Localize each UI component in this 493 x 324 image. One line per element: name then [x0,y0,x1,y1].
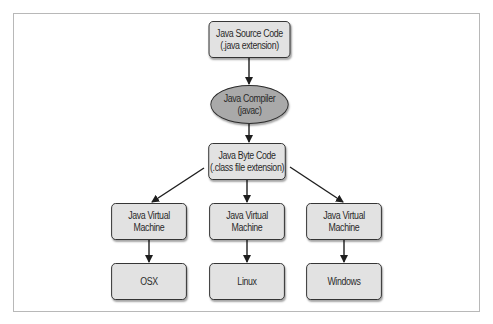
node-label-line1: Java Virtual [128,210,170,222]
node-label: Windows [327,276,360,288]
node-jvm-middle: Java Virtual Machine [209,203,285,240]
node-java-compiler: Java Compiler (javac) [210,85,288,124]
node-os-osx: OSX [111,263,187,300]
node-label: Linux [237,276,256,288]
node-jvm-left: Java Virtual Machine [111,203,187,240]
node-label-line2: Machine [134,222,165,234]
node-label-line2: (.class file extension) [210,162,284,174]
node-jvm-right: Java Virtual Machine [306,203,382,240]
node-label-line1: Java Source Code [216,28,283,40]
node-java-source-code: Java Source Code (.java extension) [209,21,291,58]
node-java-byte-code: Java Byte Code (.class file extension) [208,143,285,180]
arrow-bytecode-to-jvm-right [290,167,343,202]
node-label-line2: (.java extension) [220,40,279,52]
node-os-linux: Linux [209,263,285,300]
arrow-bytecode-to-jvm-left [152,168,204,202]
node-os-windows: Windows [306,263,382,300]
node-label-line1: Java Virtual [226,210,268,222]
node-label-line2: Machine [232,222,263,234]
node-label-line1: Java Virtual [323,210,365,222]
node-label: OSX [140,276,158,288]
node-label-line1: Java Byte Code [218,150,275,162]
node-label-line2: Machine [329,222,360,234]
node-label-line2: (javac) [238,105,262,117]
node-label-line1: Java Compiler [224,93,276,105]
